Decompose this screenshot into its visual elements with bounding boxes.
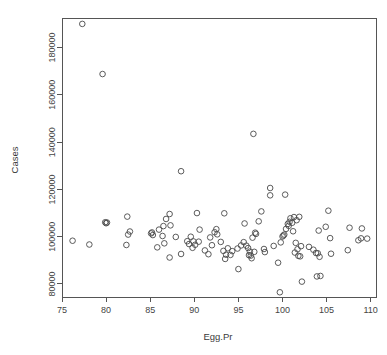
x-tick-label: 85 bbox=[145, 305, 155, 315]
scatter-point bbox=[173, 234, 179, 240]
scatter-point bbox=[221, 211, 227, 217]
scatter-point bbox=[318, 273, 324, 279]
scatter-point bbox=[79, 21, 85, 27]
scatter-point bbox=[160, 233, 166, 239]
scatter-point bbox=[290, 228, 296, 234]
scatter-point bbox=[154, 245, 160, 251]
scatter-point bbox=[267, 193, 273, 199]
y-axis-title: Cases bbox=[9, 146, 20, 173]
scatter-point bbox=[163, 216, 169, 222]
scatter-point bbox=[100, 71, 106, 77]
scatter-point bbox=[196, 239, 202, 245]
scatter-point bbox=[327, 235, 333, 241]
scatter-point bbox=[323, 224, 329, 230]
scatter-plot-figure: 7580859095100105110 80000100000120000140… bbox=[0, 0, 387, 355]
x-tick-label: 105 bbox=[319, 305, 334, 315]
scatter-point bbox=[178, 251, 184, 257]
scatter-point bbox=[271, 243, 277, 249]
scatter-point bbox=[267, 185, 273, 191]
scatter-point bbox=[197, 227, 203, 233]
y-tick-label: 140000 bbox=[47, 127, 57, 157]
x-tick-label: 80 bbox=[101, 305, 111, 315]
scatter-point bbox=[236, 266, 242, 272]
scatter-point bbox=[259, 209, 265, 215]
scatter-point bbox=[328, 251, 334, 257]
scatter-point bbox=[235, 246, 241, 252]
scatter-point bbox=[316, 228, 322, 234]
y-tick-label: 160000 bbox=[47, 80, 57, 110]
scatter-point bbox=[347, 225, 353, 231]
scatter-point bbox=[168, 223, 174, 229]
scatter-point bbox=[167, 211, 173, 217]
scatter-point bbox=[194, 210, 200, 216]
scatter-point bbox=[162, 241, 168, 247]
scatter-point bbox=[359, 226, 365, 232]
x-tick-label: 95 bbox=[233, 305, 243, 315]
scatter-point bbox=[156, 227, 162, 233]
scatter-point bbox=[124, 242, 130, 248]
scatter-point bbox=[87, 242, 93, 248]
scatter-point bbox=[278, 240, 284, 246]
scatter-point bbox=[250, 235, 256, 241]
scatter-point bbox=[242, 221, 248, 227]
y-axis-ticks: 80000100000120000140000160000180000 bbox=[47, 33, 62, 297]
x-tick-label: 75 bbox=[57, 305, 67, 315]
scatter-point bbox=[206, 251, 212, 257]
scatter-point bbox=[218, 239, 224, 245]
x-axis-ticks: 7580859095100105110 bbox=[57, 297, 378, 315]
scatter-point bbox=[282, 192, 288, 198]
chart-canvas: 7580859095100105110 80000100000120000140… bbox=[0, 0, 387, 355]
y-tick-label: 80000 bbox=[47, 271, 57, 296]
scatter-point bbox=[70, 238, 76, 244]
scatter-point bbox=[178, 168, 184, 174]
data-points-layer bbox=[70, 21, 370, 295]
scatter-point bbox=[275, 260, 281, 266]
scatter-point bbox=[167, 255, 173, 261]
scatter-point bbox=[293, 240, 299, 246]
scatter-point bbox=[298, 243, 304, 249]
y-tick-label: 120000 bbox=[47, 174, 57, 204]
scatter-point bbox=[326, 208, 332, 214]
scatter-point bbox=[209, 242, 215, 248]
x-tick-label: 110 bbox=[364, 305, 378, 315]
y-tick-label: 180000 bbox=[47, 33, 57, 63]
x-axis-title: Egg.Pr bbox=[203, 331, 232, 342]
x-tick-label: 90 bbox=[189, 305, 199, 315]
scatter-point bbox=[124, 214, 130, 220]
x-tick-label: 100 bbox=[275, 305, 290, 315]
scatter-point bbox=[345, 247, 351, 253]
scatter-point bbox=[251, 131, 257, 137]
y-tick-label: 100000 bbox=[47, 222, 57, 252]
scatter-point bbox=[207, 235, 213, 241]
scatter-point bbox=[256, 219, 262, 225]
scatter-point bbox=[364, 236, 370, 242]
scatter-point bbox=[277, 289, 283, 295]
scatter-point bbox=[299, 279, 305, 285]
